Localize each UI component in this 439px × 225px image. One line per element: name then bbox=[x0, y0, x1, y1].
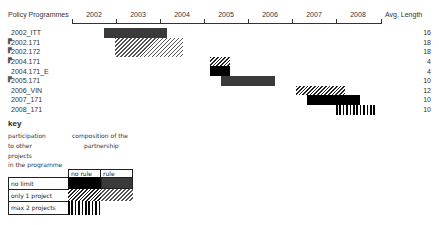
key-swatch-no-limit-rule bbox=[101, 177, 133, 189]
key-composition-line: composition of the bbox=[72, 132, 128, 139]
avg-length-value: 10 bbox=[411, 106, 431, 113]
axis-tick bbox=[292, 19, 293, 24]
year-label: 2004 bbox=[174, 11, 190, 18]
bar-2002-171-172 bbox=[115, 38, 183, 57]
key-swatch-only-1-rule bbox=[101, 189, 133, 201]
axis-tick bbox=[160, 19, 161, 24]
axis-tick bbox=[204, 19, 205, 24]
avg-length-value: 4 bbox=[411, 58, 431, 65]
bar-2002-itt bbox=[104, 28, 167, 38]
bar-2004-171 bbox=[210, 57, 230, 66]
year-label: 2003 bbox=[130, 11, 146, 18]
year-label: 2008 bbox=[350, 11, 366, 18]
key-participation-line: projects bbox=[8, 152, 32, 159]
header-title: Policy Programmes bbox=[8, 11, 69, 18]
avg-length-value: 16 bbox=[411, 29, 431, 36]
avg-length-value: 18 bbox=[411, 39, 431, 46]
bar-2007-171 bbox=[307, 95, 360, 105]
row-label: 2002.172 bbox=[11, 48, 40, 55]
row-label: 2008_171 bbox=[11, 106, 42, 113]
avg-length-header: Avg. Length bbox=[385, 11, 422, 18]
key-participation-line: in the programme bbox=[8, 161, 62, 168]
row-label: 2002.171 bbox=[11, 39, 40, 46]
key-participation-line: to other bbox=[8, 142, 32, 149]
year-label: 2005 bbox=[218, 11, 234, 18]
axis-tick bbox=[248, 19, 249, 24]
axis-tick bbox=[381, 19, 382, 24]
key-title: key bbox=[8, 119, 21, 128]
key-participation-line: participation bbox=[8, 132, 46, 139]
row-label: 2005.171 bbox=[11, 77, 40, 84]
key-swatch-only-1-no-rule bbox=[68, 189, 101, 201]
avg-length-value: 18 bbox=[411, 48, 431, 55]
key-composition-line: partnership bbox=[84, 142, 119, 149]
avg-length-value: 10 bbox=[411, 96, 431, 103]
key-swatch-max-2-no-rule bbox=[68, 201, 101, 215]
year-label: 2006 bbox=[262, 11, 278, 18]
year-label: 2002 bbox=[86, 11, 102, 18]
year-label: 2007 bbox=[306, 11, 322, 18]
row-label: 2004.171 bbox=[11, 58, 40, 65]
bar-2008-171 bbox=[336, 105, 375, 115]
key-row-max-2-projects: max 2 projects bbox=[8, 201, 69, 215]
bar-2006-vin bbox=[296, 86, 345, 95]
avg-length-value: 4 bbox=[411, 68, 431, 75]
row-label: 2006_VIN bbox=[11, 87, 42, 94]
row-label: 2004.171_E bbox=[11, 68, 49, 75]
row-label: 2002_ITT bbox=[11, 29, 41, 36]
axis-tick bbox=[336, 19, 337, 24]
bar-2004-171-e bbox=[210, 66, 230, 76]
row-label: 2007_171 bbox=[11, 96, 42, 103]
axis-tick bbox=[116, 19, 117, 24]
key-swatch-no-limit-no-rule bbox=[68, 177, 101, 189]
avg-length-value: 10 bbox=[411, 77, 431, 84]
axis-tick bbox=[72, 19, 73, 24]
avg-length-value: 12 bbox=[411, 87, 431, 94]
bar-2005-171 bbox=[221, 76, 275, 86]
